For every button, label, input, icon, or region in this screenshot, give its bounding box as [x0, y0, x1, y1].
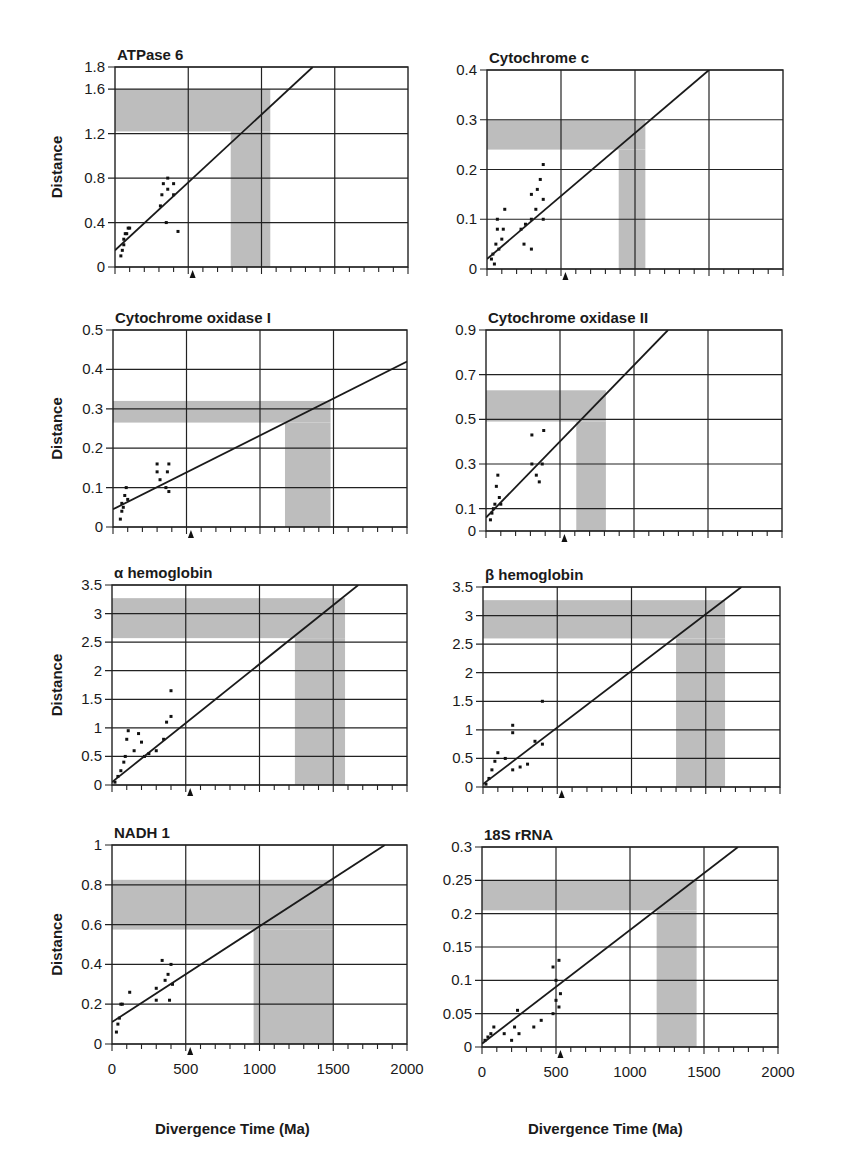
data-point	[122, 506, 125, 509]
data-point	[541, 463, 544, 466]
x-tick-label: 2000	[761, 1063, 794, 1080]
data-point	[559, 992, 562, 995]
y-tick-label: 2	[465, 664, 473, 681]
x-tick-label: 1500	[687, 1063, 720, 1080]
data-point	[534, 208, 537, 211]
data-point	[168, 999, 171, 1002]
shaded-time-band	[231, 131, 271, 267]
calibration-marker-icon	[559, 790, 565, 798]
shaded-distance-band	[482, 880, 697, 910]
data-point	[116, 1023, 119, 1026]
y-tick-label: 1.5	[452, 692, 473, 709]
y-tick-label: 0.5	[455, 410, 476, 427]
shaded-time-band	[295, 638, 345, 785]
data-point	[164, 979, 167, 982]
data-point	[495, 485, 498, 488]
data-point	[540, 1019, 543, 1022]
panel-title: 18S rRNA	[484, 826, 553, 843]
data-point	[159, 478, 162, 481]
y-tick-label: 0	[464, 1038, 472, 1055]
y-tick-label: 0.6	[81, 916, 102, 933]
panel-18s-rrna-plot: 00.050.10.150.20.250.318S rRNA0500100015…	[443, 826, 795, 1080]
y-tick-label: 0.2	[81, 995, 102, 1012]
shaded-distance-band	[112, 598, 345, 638]
data-point	[121, 249, 124, 252]
data-point	[160, 193, 163, 196]
y-tick-label: 0.25	[443, 871, 472, 888]
y-tick-label: 0	[465, 778, 473, 795]
data-point	[489, 518, 492, 521]
y-tick-label: 0.3	[451, 838, 472, 855]
panel-beta-hemoglobin-plot: 00.511.522.533.5β hemoglobin	[452, 566, 780, 798]
y-axis-label: Distance	[48, 654, 65, 717]
y-tick-label: 0	[94, 776, 102, 793]
shaded-distance-band	[115, 89, 270, 131]
calibration-marker-icon	[188, 530, 194, 538]
data-point	[498, 496, 501, 499]
data-point	[167, 462, 170, 465]
data-point	[170, 963, 173, 966]
y-tick-label: 0.2	[456, 161, 477, 178]
data-point	[552, 1012, 555, 1015]
data-point	[125, 232, 128, 235]
data-point	[523, 243, 526, 246]
y-tick-label: 3.5	[452, 578, 473, 595]
y-tick-label: 1.2	[84, 125, 105, 142]
regression-line	[112, 845, 385, 1022]
data-point	[128, 227, 131, 230]
data-point	[156, 462, 159, 465]
data-point	[155, 749, 158, 752]
x-tick-label: 1000	[243, 1060, 276, 1077]
y-tick-label: 1	[94, 836, 102, 853]
data-point	[170, 689, 173, 692]
data-point	[121, 1003, 124, 1006]
data-point	[535, 474, 538, 477]
data-point	[120, 510, 123, 513]
calibration-marker-icon	[562, 272, 568, 280]
data-point	[496, 474, 499, 477]
y-tick-label: 0	[94, 1035, 102, 1052]
data-point	[170, 715, 173, 718]
x-tick-label: 500	[173, 1060, 198, 1077]
panel-cytochrome-oxidase-2-plot: 00.10.30.50.70.9Cytochrome oxidase II	[455, 309, 782, 542]
y-tick-label: 1.5	[81, 690, 102, 707]
data-point	[557, 1006, 560, 1009]
data-point	[511, 724, 514, 727]
calibration-marker-icon	[561, 534, 567, 542]
data-point	[496, 218, 499, 221]
shaded-distance-band	[486, 390, 606, 421]
data-point	[122, 761, 125, 764]
shaded-time-band	[676, 638, 725, 787]
y-tick-label: 0.1	[82, 479, 103, 496]
data-point	[119, 769, 122, 772]
panel-nadh1-plot: 00.20.40.60.81NADH 1Distance050010001500…	[48, 824, 424, 1077]
panel-atpase6-plot: 00.40.81.21.61.8ATPase 6Distance	[48, 46, 408, 278]
data-point	[500, 238, 503, 241]
data-point	[133, 749, 136, 752]
data-point	[542, 429, 545, 432]
data-point	[503, 208, 506, 211]
data-point	[516, 1009, 519, 1012]
data-point	[166, 470, 169, 473]
data-point	[156, 470, 159, 473]
data-point	[503, 1032, 506, 1035]
data-point	[123, 494, 126, 497]
data-point	[493, 263, 496, 266]
data-point	[539, 178, 542, 181]
data-point	[493, 760, 496, 763]
data-point	[127, 729, 130, 732]
y-tick-label: 1	[465, 721, 473, 738]
data-point	[125, 486, 128, 489]
y-tick-label: 0.5	[452, 749, 473, 766]
data-point	[165, 221, 168, 224]
shaded-distance-band	[113, 401, 331, 423]
calibration-marker-icon	[190, 270, 196, 278]
data-point	[172, 182, 175, 185]
data-point	[555, 979, 558, 982]
data-point	[541, 700, 544, 703]
y-axis-label: Distance	[48, 397, 65, 460]
panel-title: α hemoglobin	[114, 564, 212, 581]
y-tick-label: 0.3	[456, 111, 477, 128]
data-point	[137, 732, 140, 735]
data-point	[530, 248, 533, 251]
